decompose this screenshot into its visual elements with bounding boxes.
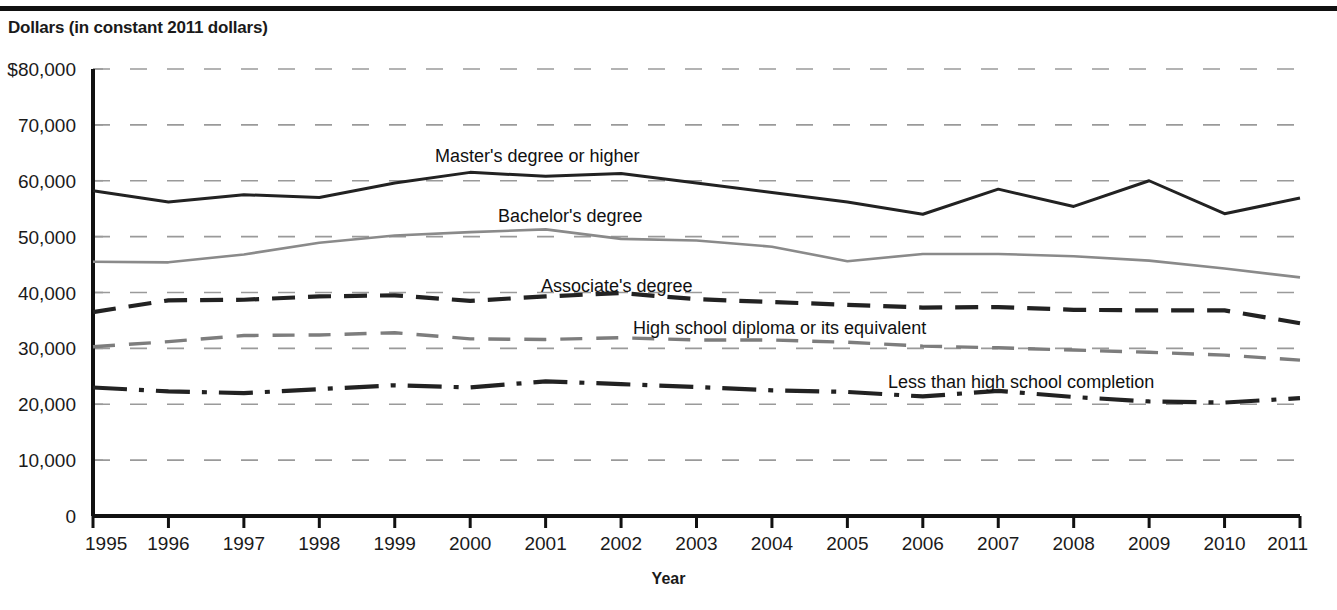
- x-tick-label: 2001: [524, 533, 566, 554]
- series-line: [93, 172, 1300, 214]
- x-tick-label: 2003: [675, 533, 717, 554]
- series-label-highschool: High school diploma or its equivalent: [633, 318, 926, 338]
- y-axis-tick-labels: $80,00070,00060,00050,00040,00030,00020,…: [7, 59, 76, 527]
- y-tick-label: 10,000: [18, 450, 76, 471]
- x-tick-label: 2010: [1203, 533, 1245, 554]
- y-tick-label: 50,000: [18, 227, 76, 248]
- x-tick-label: 2000: [449, 533, 491, 554]
- y-tick-label: $80,000: [7, 59, 76, 80]
- y-tick-label: 70,000: [18, 115, 76, 136]
- x-tick-label: 2011: [1267, 533, 1308, 554]
- x-tick-label: 1998: [298, 533, 340, 554]
- y-tick-label: 20,000: [18, 394, 76, 415]
- x-tick-label: 2002: [600, 533, 642, 554]
- series-inline-labels: Master's degree or higherBachelor's degr…: [435, 146, 1154, 392]
- x-tick-label: 2005: [826, 533, 868, 554]
- series-label-associates: Associate's degree: [541, 276, 693, 296]
- x-tick-label: 1999: [374, 533, 416, 554]
- series-label-bachelors: Bachelor's degree: [498, 206, 643, 226]
- y-tick-label: 60,000: [18, 171, 76, 192]
- data-series-lines: [93, 172, 1300, 402]
- x-tick-label: 1995: [85, 533, 127, 554]
- y-tick-label: 40,000: [18, 283, 76, 304]
- x-tick-label: 1997: [223, 533, 265, 554]
- chart-canvas: $80,00070,00060,00050,00040,00030,00020,…: [0, 0, 1337, 610]
- y-tick-label: 30,000: [18, 338, 76, 359]
- series-label-masters: Master's degree or higher: [435, 146, 640, 166]
- x-axis-tick-labels: 1995199619971998199920002001200220032004…: [85, 533, 1308, 554]
- x-tick-label: 2009: [1128, 533, 1170, 554]
- x-tick-label: 2004: [751, 533, 794, 554]
- x-tick-label: 1996: [147, 533, 189, 554]
- x-axis-title: Year: [0, 570, 1337, 588]
- y-tick-label: 0: [65, 506, 76, 527]
- series-label-lessthanhs: Less than high school completion: [888, 372, 1154, 392]
- x-tick-label: 2008: [1053, 533, 1095, 554]
- line-chart: $80,00070,00060,00050,00040,00030,00020,…: [0, 0, 1337, 610]
- x-tick-label: 2006: [902, 533, 944, 554]
- x-tick-label: 2007: [977, 533, 1019, 554]
